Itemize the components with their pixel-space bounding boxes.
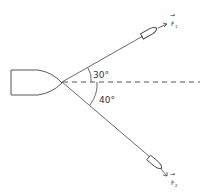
- diagram-canvas: 30° 40° → F 1 → F 2: [0, 0, 200, 196]
- arrow-upper: [158, 23, 167, 28]
- force-label-f1: → F 1: [170, 11, 178, 29]
- arrow-lower: [161, 169, 167, 176]
- boat-hull: [11, 70, 62, 95]
- svg-text:1: 1: [175, 24, 178, 29]
- svg-text:→: →: [170, 170, 175, 177]
- force-label-f2: → F 2: [170, 170, 178, 188]
- tugboat-lower: [147, 155, 164, 171]
- angle-label-upper: 30°: [93, 70, 109, 80]
- angle-label-lower: 40°: [99, 95, 115, 105]
- tugboat-upper: [140, 26, 158, 39]
- angle-arc-lower: [90, 82, 97, 105]
- svg-text:→: →: [170, 11, 175, 18]
- rope-lower: [62, 82, 150, 157]
- svg-text:2: 2: [175, 183, 178, 188]
- angle-arc-upper: [88, 68, 91, 82]
